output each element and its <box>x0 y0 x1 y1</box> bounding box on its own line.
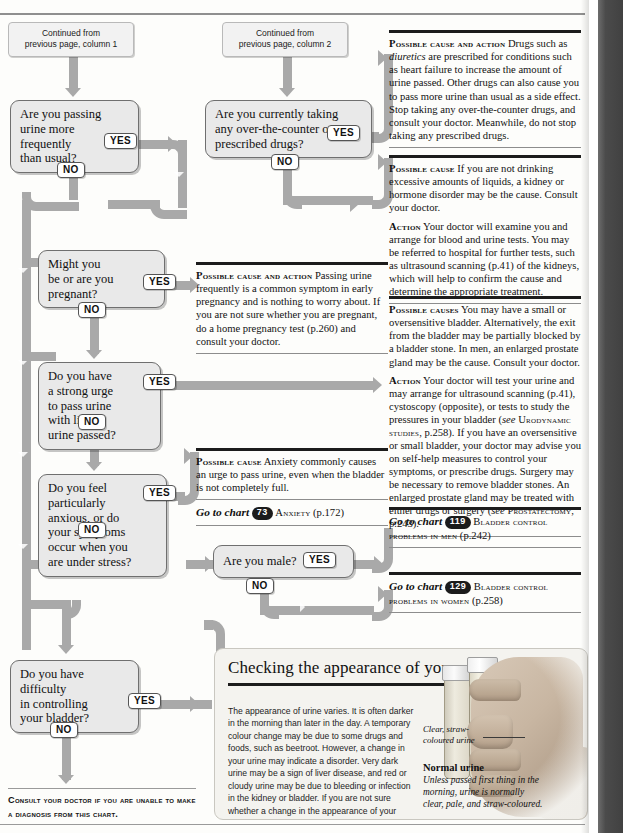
label: NO <box>84 416 100 427</box>
goto-title: Anxiety <box>275 507 310 518</box>
label: YES <box>149 487 170 498</box>
page-edge-shadow <box>581 0 589 833</box>
leader-line <box>483 737 525 738</box>
advice-bar <box>389 296 581 299</box>
leader-label-text: Clear, straw- coloured urine <box>423 724 475 745</box>
answer-no-male[interactable]: NO <box>246 578 274 594</box>
arrow-male-no <box>378 586 387 602</box>
advice-bar <box>389 507 581 510</box>
advice-bar <box>196 262 388 265</box>
question-text-male: Are you male? <box>223 554 297 568</box>
arrow-col1 <box>65 88 81 97</box>
connector-drugs-no-h <box>283 196 373 205</box>
answer-no-drugs[interactable]: NO <box>271 154 299 170</box>
top-rule <box>0 13 585 15</box>
continued-box-column-2: Continued from previous page, column 2 <box>222 22 348 57</box>
advice-action-heading: Action <box>389 375 421 386</box>
caption-title: Normal urine <box>423 762 543 773</box>
advice-heading: Possible cause <box>389 163 455 174</box>
chevron-spine-4 <box>18 544 28 549</box>
page-edge-white <box>589 0 598 833</box>
finger-index <box>469 679 521 701</box>
arrow-col2 <box>279 88 295 97</box>
advice-body-italic: diuretics <box>389 51 426 62</box>
advice-pregnant-yes: Possible cause and action Passing urine … <box>196 262 388 354</box>
footnote-text: Consult your doctor if you are unable to… <box>8 794 196 821</box>
footnote-rule <box>8 788 196 789</box>
continued-label-2: Continued from previous page, column 2 <box>239 28 332 49</box>
arrow-drugs-no <box>378 154 387 170</box>
answer-yes-anxious[interactable]: YES <box>143 485 176 501</box>
goto-page: (p.258) <box>472 595 503 606</box>
info-panel-body: The appearance of urine varies. It is of… <box>228 705 414 820</box>
label: YES <box>149 276 170 287</box>
advice-anxious-yes: Possible cause Anxiety commonly causes a… <box>196 448 388 526</box>
advice-heading: Possible cause <box>196 456 262 467</box>
question-text-urge: Do you have a strong urge to pass urine … <box>48 369 116 442</box>
advice-drugs-yes: Possible cause and action Drugs such as … <box>389 30 581 148</box>
label: YES <box>309 554 330 565</box>
advice-male-no: Go to chart 129 Bladder control problems… <box>389 572 581 613</box>
advice-rule-mid <box>196 499 388 500</box>
label: YES <box>134 695 155 706</box>
connector-spine-urge <box>22 352 56 361</box>
label: NO <box>252 580 268 591</box>
answer-yes-drugs[interactable]: YES <box>327 125 360 141</box>
advice-heading: Possible causes <box>389 304 459 315</box>
arrow-q6 <box>58 645 74 654</box>
answer-no-urge[interactable]: NO <box>78 414 106 430</box>
connector-urge-yes <box>165 381 375 390</box>
answer-no-anxious[interactable]: NO <box>78 522 106 538</box>
answer-no-frequency[interactable]: NO <box>57 162 85 178</box>
arrow-drugs-yes <box>378 50 387 66</box>
advice-male-yes: Go to chart 119 Bladder control problems… <box>389 507 581 548</box>
advice-rule <box>196 525 388 526</box>
label: NO <box>277 156 293 167</box>
advice-heading: Possible cause and action <box>196 270 312 281</box>
advice-body-1: Drugs such as <box>508 38 567 49</box>
arrow-bc-yes <box>190 696 199 712</box>
continued-label-1: Continued from previous page, column 1 <box>25 28 118 49</box>
answer-no-pregnant[interactable]: NO <box>78 302 106 318</box>
advice-body: Passing urine frequently is a common sym… <box>196 270 380 346</box>
advice-goto-women[interactable]: Go to chart 129 Bladder control problems… <box>389 579 581 607</box>
answer-yes-bladder-control[interactable]: YES <box>128 693 161 709</box>
advice-text-drugs-yes: Possible cause and action Drugs such as … <box>389 37 581 142</box>
answer-yes-urge[interactable]: YES <box>143 374 176 390</box>
answer-no-bladder-control[interactable]: NO <box>50 722 78 738</box>
label: NO <box>63 164 79 175</box>
consult-doctor-footnote: Consult your doctor if you are unable to… <box>8 788 196 821</box>
answer-yes-male[interactable]: YES <box>303 552 336 568</box>
chevron-male-no <box>300 602 305 612</box>
arrow-urge-yes <box>373 377 382 393</box>
advice-bar <box>389 572 581 575</box>
advice-text-pregnant-yes: Possible cause and action Passing urine … <box>196 269 388 347</box>
connector-freq-join-h <box>108 200 160 209</box>
question-text-drugs: Are you currently taking any over-the-co… <box>215 107 338 151</box>
advice-body-2: are prescribed for conditions such as he… <box>389 51 581 140</box>
advice-bar <box>196 448 388 451</box>
goto-prefix: Go to chart <box>389 580 442 592</box>
connector-q6-down <box>62 600 71 648</box>
advice-rule <box>196 353 388 354</box>
answer-yes-pregnant[interactable]: YES <box>143 274 176 290</box>
chart-number-badge: 73 <box>252 507 273 520</box>
advice-action-heading: Action <box>389 221 421 232</box>
info-panel-urine-appearance: Checking the appearance of your urine Th… <box>214 648 588 820</box>
advice-rule <box>389 612 581 613</box>
arrow-urge-no <box>86 462 102 471</box>
label: YES <box>110 135 131 146</box>
advice-goto-men[interactable]: Go to chart 119 Bladder control problems… <box>389 514 581 542</box>
question-text-frequency: Are you passing urine more frequently th… <box>20 107 101 165</box>
question-text-bladder-control: Do you have difficulty in controlling yo… <box>20 667 89 725</box>
arrow-preg-no <box>86 350 102 359</box>
label: NO <box>84 524 100 535</box>
connector-male-no-h <box>260 606 374 615</box>
chart-number-badge: 119 <box>445 516 471 529</box>
chevron-spine-1 <box>18 268 28 273</box>
answer-yes-frequency[interactable]: YES <box>104 133 137 149</box>
info-panel-caption: Normal urine Unless passed first thing i… <box>423 762 543 811</box>
advice-goto-anxiety[interactable]: Go to chart 73 Anxiety (p.172) <box>196 505 388 520</box>
info-panel-body-text: The appearance of urine varies. It is of… <box>228 705 414 820</box>
chart-number-badge: 129 <box>445 581 471 594</box>
